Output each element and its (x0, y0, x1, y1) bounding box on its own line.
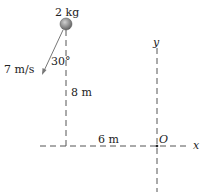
mass-label: 2 kg (55, 6, 79, 19)
height-label: 8 m (71, 86, 92, 99)
origin-label: O (159, 133, 168, 146)
distance-label: 6 m (98, 133, 119, 146)
origin-point (156, 145, 159, 148)
velocity-arrowhead (42, 68, 47, 75)
angle-label: 30° (51, 55, 71, 68)
projectile-diagram: 2 kg 7 m/s 30° 8 m 6 m O x y (0, 0, 210, 193)
mass-ball (60, 18, 72, 30)
velocity-label: 7 m/s (4, 63, 35, 76)
y-axis-label: y (152, 36, 160, 49)
x-axis-label: x (193, 139, 200, 152)
